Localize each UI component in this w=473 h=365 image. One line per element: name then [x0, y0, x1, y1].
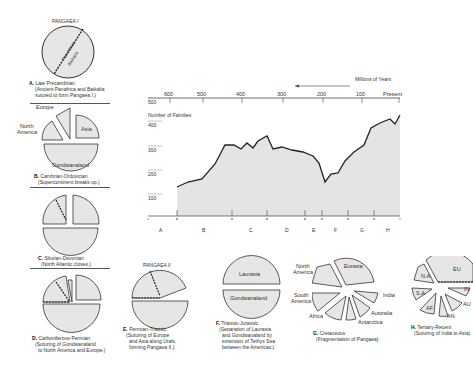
- y-tick-300: 300: [148, 147, 157, 153]
- period-label-e: E: [312, 227, 315, 233]
- label-na: N.A.: [421, 273, 432, 279]
- label-af: AF: [426, 305, 433, 311]
- period-label-h: H: [386, 227, 390, 233]
- caption-b: B. Cambrian-Ordovician (Supercontinent b…: [34, 173, 100, 185]
- caption-h: H. Tertiary-Recent (Suturing of India to…: [411, 324, 470, 336]
- label-laurasia: Laurasia: [239, 271, 260, 277]
- y-tick-500: 500: [148, 99, 157, 105]
- carboniferous-permian-diagram: [40, 272, 104, 334]
- label-in: IN: [464, 286, 470, 292]
- caption-g: G. Cretaceous (Fragmentation of Pangaea): [313, 330, 379, 342]
- label-gondwanaland: Gondwanaland: [52, 162, 89, 168]
- label-asia: Asia: [81, 126, 92, 132]
- caption-c: C. Silurian-Devonian (North Atlantic clo…: [38, 255, 91, 267]
- caption-a: A. Late Precambrian (Ancient Panafrica a…: [29, 80, 105, 98]
- label-north-america-2: America: [17, 129, 37, 135]
- label-india: India: [383, 292, 395, 298]
- x-tick-300: 300: [277, 91, 286, 97]
- pangaea-i-diagram: Pan-Africa Baikalia: [40, 24, 96, 80]
- triassic-jurassic-diagram: [220, 254, 284, 320]
- period-label-f: F: [334, 227, 337, 233]
- y-axis-title: Number of Families: [148, 112, 192, 118]
- label-australia: Australia: [371, 310, 392, 316]
- divider: [30, 187, 110, 188]
- x-tick-100: 100: [356, 91, 365, 97]
- y-tick-400: 400: [148, 122, 157, 128]
- label-antarctica: Antarctica: [358, 319, 382, 325]
- label-an: AN: [447, 313, 455, 319]
- period-label-g: G: [360, 227, 364, 233]
- label-africa: Africa: [309, 313, 323, 319]
- y-tick-100: 100: [148, 195, 157, 201]
- caption-d: D. Carboniferous-Permian (Suturing of Go…: [32, 335, 106, 353]
- x-tick-present: Present: [383, 91, 402, 97]
- top-axis-title: Millions of Years: [355, 76, 392, 82]
- label-gondwanaland-f: Gondwanaland: [230, 295, 267, 301]
- caption-e: E. Permian-Triassic (Suturing of Europe …: [123, 326, 176, 350]
- label-north-america-g2: America: [293, 269, 313, 275]
- caption-f: F. Triassic-Jurassic (Separation of Laur…: [216, 320, 275, 350]
- families-chart: Millions of Years 600 500 400 300 200 10…: [140, 55, 473, 220]
- families-area: [177, 115, 400, 216]
- period-label-b: B: [202, 227, 205, 233]
- period-label-d: D: [285, 227, 289, 233]
- x-tick-400: 400: [236, 91, 245, 97]
- label-south-america-g2: America: [291, 298, 311, 304]
- period-label-c: C: [249, 227, 253, 233]
- label-eu: EU: [453, 266, 461, 272]
- x-tick-200: 200: [317, 91, 326, 97]
- divider: [30, 268, 110, 269]
- label-europe: Europe: [36, 104, 54, 110]
- label-au: AU: [463, 301, 471, 307]
- silurian-devonian-diagram: [38, 190, 103, 256]
- x-tick-600: 600: [164, 91, 173, 97]
- label-eurasia: Eurasia: [344, 263, 363, 269]
- label-sa: S.A.: [416, 290, 426, 296]
- permian-triassic-diagram: [128, 266, 194, 330]
- x-tick-500: 500: [197, 91, 206, 97]
- period-label-a: A: [159, 227, 162, 233]
- y-tick-200: 200: [148, 171, 157, 177]
